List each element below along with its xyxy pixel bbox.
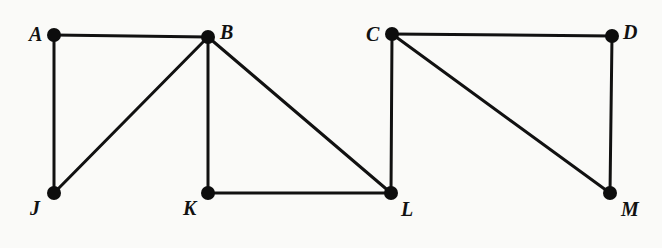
- node-label-c: C: [366, 24, 379, 44]
- edges-layer: [54, 34, 612, 193]
- edge-c-m: [392, 34, 610, 193]
- node-label-a: A: [29, 24, 42, 44]
- graph-diagram: A B C D J K L M: [0, 0, 662, 248]
- node-a: [47, 28, 61, 42]
- node-label-d: D: [623, 22, 637, 42]
- node-label-b: B: [220, 22, 233, 42]
- edge-d-m: [610, 36, 612, 193]
- node-label-k: K: [183, 198, 196, 218]
- node-m: [603, 186, 617, 200]
- node-b: [201, 30, 215, 44]
- node-j: [47, 186, 61, 200]
- node-label-j: J: [30, 198, 40, 218]
- node-label-m: M: [621, 199, 639, 219]
- node-k: [201, 186, 215, 200]
- node-l: [384, 186, 398, 200]
- node-c: [385, 27, 399, 41]
- node-label-l: L: [401, 199, 413, 219]
- edge-c-l: [391, 34, 392, 193]
- edge-c-d: [392, 34, 612, 36]
- graph-canvas: [0, 0, 662, 248]
- edge-b-j: [54, 37, 208, 193]
- edge-a-b: [54, 35, 208, 37]
- node-d: [605, 29, 619, 43]
- edge-b-l: [208, 37, 391, 193]
